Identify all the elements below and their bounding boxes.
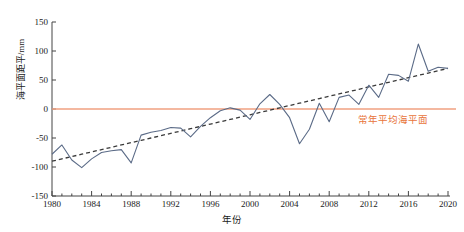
data-line (52, 44, 448, 168)
trend-line (52, 68, 448, 161)
plot-area (0, 0, 464, 232)
sea-level-anomaly-chart: 海平面距平/mm 150 100 50 0 -50 -100 -150 1980… (0, 0, 464, 232)
x-axis-ticks (52, 191, 448, 196)
